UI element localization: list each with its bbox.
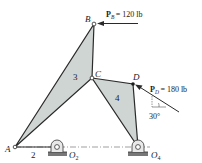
label-b: B xyxy=(85,14,91,24)
link-4 xyxy=(92,78,138,147)
ground-support-o2 xyxy=(48,140,67,156)
label-o2: O2 xyxy=(69,150,79,161)
joint-c xyxy=(90,76,94,80)
label-link-2: 2 xyxy=(31,150,36,160)
label-c: C xyxy=(95,69,102,79)
joint-d xyxy=(131,82,135,86)
angle-marker xyxy=(152,96,166,107)
label-force-pb: PB= 120 lb xyxy=(106,10,143,20)
label-force-pd: PD= 180 lb xyxy=(150,85,187,95)
label-d: D xyxy=(132,72,140,82)
label-angle: 30° xyxy=(149,112,160,121)
joint-b xyxy=(92,22,96,26)
label-link-4: 4 xyxy=(115,93,120,103)
label-link-3: 3 xyxy=(73,72,78,82)
joint-a xyxy=(13,145,17,149)
label-a: A xyxy=(4,144,11,154)
ground-support-o4 xyxy=(128,140,148,156)
link-3 xyxy=(15,24,94,147)
force-pb-arrow xyxy=(97,21,138,26)
label-o4: O4 xyxy=(151,150,161,161)
linkage-diagram: B C D A 3 4 2 O2 O4 PB= 120 lb PD= 180 l… xyxy=(0,0,202,163)
